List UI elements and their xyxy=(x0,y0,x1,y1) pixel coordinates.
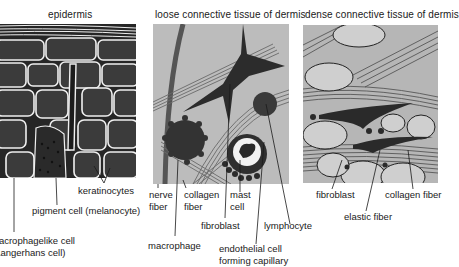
label-melanocyte: pigment cell (melanocyte) xyxy=(32,205,140,216)
label-collagen-fiber-dense: collagen fiber xyxy=(385,189,442,200)
melanocyte-cell xyxy=(34,126,66,178)
label-fibroblast-dense: fibroblast xyxy=(316,189,355,200)
label-endothelial-line2: forming capillary xyxy=(219,255,288,266)
label-mast-cell-line2: cell xyxy=(230,201,244,212)
label-macrophage: macrophage xyxy=(148,240,201,251)
dense-tissue-illustration xyxy=(303,25,438,183)
dense-tissue-title: dense connective tissue of dermis xyxy=(305,9,459,20)
lymphocyte-cell xyxy=(253,92,277,116)
label-mast-cell-line1: mast xyxy=(230,189,251,200)
label-nerve-fiber-line1: nerve xyxy=(149,189,173,200)
label-lymphocyte: lymphocyte xyxy=(264,220,312,231)
epidermis-title: epidermis xyxy=(48,9,92,20)
label-langerhans-line2: (Langerhans cell) xyxy=(0,247,65,258)
label-collagen-fiber-line1: collagen xyxy=(184,189,219,200)
label-nerve-fiber-line2: fiber xyxy=(149,201,167,212)
loose-tissue-illustration xyxy=(153,24,289,184)
label-collagen-fiber-line2: fiber xyxy=(184,201,202,212)
label-langerhans-line1: macrophagelike cell xyxy=(0,235,75,246)
epidermis-illustration xyxy=(0,24,136,178)
label-keratinocytes: keratinocytes xyxy=(78,185,134,196)
loose-tissue-title: loose connective tissue of dermis xyxy=(155,9,306,20)
label-fibroblast-loose: fibroblast xyxy=(201,220,240,231)
label-elastic-fiber: elastic fiber xyxy=(344,211,392,222)
langerhans-cell xyxy=(68,64,76,150)
label-endothelial-line1: endothelial cell xyxy=(219,243,282,254)
capillary xyxy=(227,134,267,174)
